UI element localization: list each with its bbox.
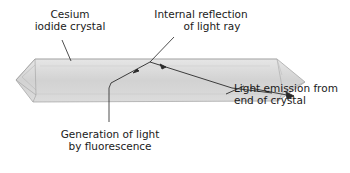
label-crystal: Cesium iodide crystal <box>33 8 107 32</box>
label-internal-reflection: Internal reflection of light ray <box>146 8 256 32</box>
label-generation: Generation of light by fluorescence <box>55 128 165 152</box>
label-light-emission: Light emission from end of crystal <box>234 82 350 106</box>
